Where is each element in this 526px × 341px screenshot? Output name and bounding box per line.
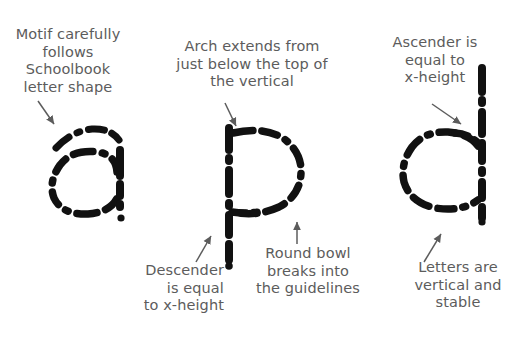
caption-ascender-equal-x-height: Ascender is equal to x-height [378, 34, 492, 87]
caption-arch-extends: Arch extends from just below the top of … [166, 38, 338, 91]
typography-specimen-diagram: Motif carefully follows Schoolbook lette… [0, 0, 526, 341]
letter-d-glyph [403, 68, 486, 226]
caption-motif-follows-schoolbook: Motif carefully follows Schoolbook lette… [2, 26, 134, 96]
caption-round-bowl-breaks: Round bowl breaks into the guidelines [238, 245, 378, 298]
caption-letters-vertical-stable: Letters are vertical and stable [396, 259, 520, 312]
letter-a-glyph [52, 129, 125, 222]
caption-descender-equal-x-height: Descender is equal to x-height [104, 262, 224, 315]
